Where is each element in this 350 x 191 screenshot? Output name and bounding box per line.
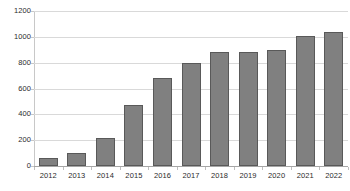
bar-2012 xyxy=(39,158,58,166)
y-axis-tick-mark xyxy=(31,140,34,141)
bar-2020 xyxy=(267,50,286,166)
y-axis-tick-label: 800 xyxy=(0,59,31,67)
x-axis-tick-label: 2021 xyxy=(291,171,319,181)
x-axis-tick-label: 2014 xyxy=(91,171,119,181)
bar-2021 xyxy=(296,36,315,166)
bar-chart: 020040060080010001200 201220132014201520… xyxy=(0,0,350,191)
x-axis-tick-mark xyxy=(234,167,235,170)
x-axis-ticks xyxy=(34,167,348,170)
y-axis-tick-mark xyxy=(31,166,34,167)
x-axis-tick-label: 2017 xyxy=(177,171,205,181)
bar-2019 xyxy=(239,52,258,166)
x-axis-tick-mark xyxy=(177,167,178,170)
y-axis-tick-label: 0 xyxy=(0,162,31,170)
x-axis-tick-mark xyxy=(91,167,92,170)
x-axis-tick-label: 2019 xyxy=(234,171,262,181)
bar-2022 xyxy=(324,32,343,166)
y-axis-tick-label: 1200 xyxy=(0,7,31,15)
bar-series xyxy=(34,11,348,166)
x-axis-tick-mark xyxy=(120,167,121,170)
x-axis-tick-mark xyxy=(319,167,320,170)
x-axis-tick-labels: 2012201320142015201620172018201920202021… xyxy=(34,171,348,185)
x-axis-tick-label: 2016 xyxy=(148,171,176,181)
x-axis-tick-mark xyxy=(63,167,64,170)
x-axis-tick-label: 2018 xyxy=(206,171,234,181)
y-axis-tick-label: 1000 xyxy=(0,33,31,41)
x-axis-tick-label: 2020 xyxy=(263,171,291,181)
y-axis-tick-labels: 020040060080010001200 xyxy=(0,0,31,191)
y-axis-tick-label: 600 xyxy=(0,85,31,93)
bar-2013 xyxy=(67,153,86,166)
x-axis-tick-mark xyxy=(348,167,349,170)
x-axis-tick-mark xyxy=(148,167,149,170)
bar-2017 xyxy=(182,63,201,166)
x-axis-tick-mark xyxy=(205,167,206,170)
x-axis-tick-label: 2012 xyxy=(34,171,62,181)
x-axis-tick-mark xyxy=(262,167,263,170)
x-axis-tick-label: 2013 xyxy=(63,171,91,181)
y-axis-tick-mark xyxy=(31,114,34,115)
x-axis-tick-mark xyxy=(291,167,292,170)
bar-2018 xyxy=(210,52,229,166)
bar-2016 xyxy=(153,78,172,166)
x-axis-tick-label: 2015 xyxy=(120,171,148,181)
plot-area xyxy=(34,11,348,166)
x-axis-tick-label: 2022 xyxy=(320,171,348,181)
y-axis-tick-label: 200 xyxy=(0,136,31,144)
y-axis-tick-mark xyxy=(31,89,34,90)
bar-2015 xyxy=(124,105,143,166)
y-axis-tick-mark xyxy=(31,11,34,12)
y-axis-tick-mark xyxy=(31,37,34,38)
x-axis-tick-mark xyxy=(34,167,35,170)
y-axis-tick-label: 400 xyxy=(0,110,31,118)
bar-2014 xyxy=(96,138,115,166)
y-axis-tick-mark xyxy=(31,63,34,64)
